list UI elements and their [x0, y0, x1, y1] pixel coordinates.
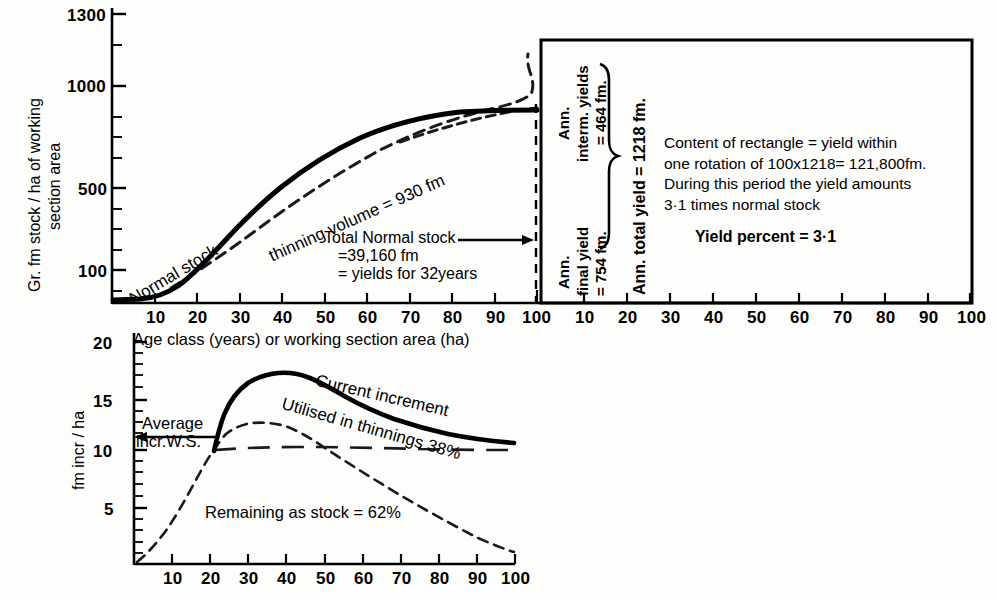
remaining-as-stock-label-text: Remaining as stock = 62% — [205, 503, 401, 521]
lower-xtick-80-text: 80 — [430, 569, 450, 588]
lower-xtick-30-text: 30 — [239, 569, 259, 588]
lower-xtick-50-text: 50 — [316, 569, 336, 588]
lower-xtick-20: 20 — [201, 569, 221, 588]
lower-xtick-60: 60 — [354, 569, 374, 588]
remaining-as-stock-label: Remaining as stock = 62% — [205, 503, 401, 521]
lower-chart-canvas — [0, 0, 997, 600]
lower-xtick-40: 40 — [277, 569, 297, 588]
lower-xtick-100-text: 100 — [501, 569, 530, 588]
lower-x-ticks — [172, 554, 515, 564]
average-increment-line1: Average — [142, 414, 203, 432]
lower-xtick-20-text: 20 — [201, 569, 221, 588]
lower-xtick-100: 100 — [501, 569, 530, 588]
lower-xtick-50: 50 — [316, 569, 336, 588]
lower-xtick-80: 80 — [430, 569, 450, 588]
lower-xtick-10-text: 10 — [163, 569, 183, 588]
lower-xtick-70-text: 70 — [392, 569, 412, 588]
average-increment-label: Average incr.W.S. — [142, 414, 203, 451]
average-increment-line2: incr.W.S. — [136, 432, 203, 450]
lower-xtick-40-text: 40 — [277, 569, 297, 588]
utilised-in-thinnings-dashed-line — [214, 447, 514, 450]
lower-xtick-70: 70 — [392, 569, 412, 588]
lower-xtick-30: 30 — [239, 569, 259, 588]
chart-page: Gr. fm stock / ha of working section are… — [0, 0, 997, 600]
lower-xtick-90: 90 — [468, 569, 488, 588]
lower-xtick-60-text: 60 — [354, 569, 374, 588]
lower-xtick-10: 10 — [163, 569, 183, 588]
lower-y-minor-ticks — [134, 353, 143, 553]
lower-xtick-90-text: 90 — [468, 569, 488, 588]
